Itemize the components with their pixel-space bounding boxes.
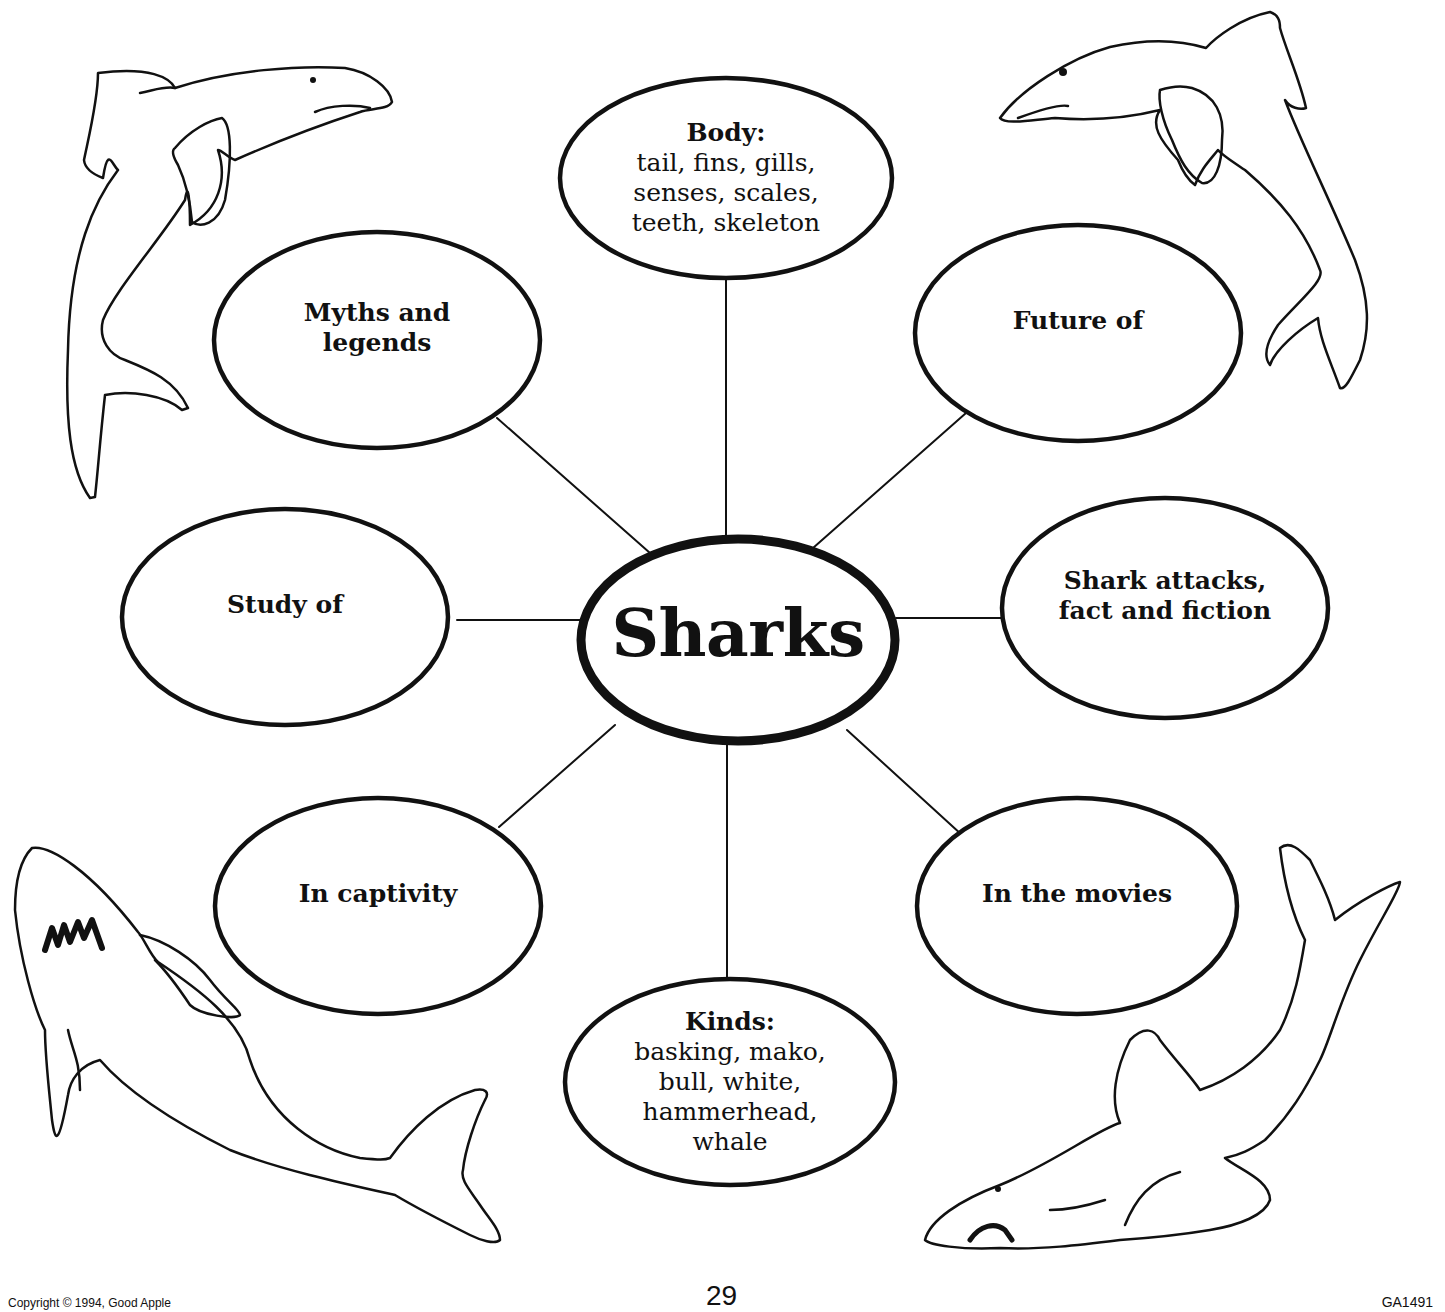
connector-movies (847, 730, 962, 835)
node-detail-line: bull, white, (634, 1067, 826, 1097)
node-title: Body: (632, 118, 820, 148)
center-topic-label: Sharks (611, 594, 864, 673)
node-shark-attacks: Shark attacks,fact and fiction (1059, 566, 1271, 626)
node-captivity: In captivity (299, 879, 458, 909)
node-detail-line: basking, mako, (634, 1037, 826, 1067)
node-title: Study of (227, 590, 343, 620)
connector-future (813, 413, 966, 548)
node-title: Shark attacks, (1059, 566, 1271, 596)
node-detail-line: hammerhead, (634, 1097, 826, 1127)
node-title: Future of (1013, 306, 1143, 336)
node-study: Study of (227, 590, 343, 620)
page-number: 29 (706, 1280, 737, 1312)
node-title: In the movies (982, 879, 1172, 909)
node-title: legends (304, 328, 451, 358)
node-detail-line: tail, fins, gills, (632, 148, 820, 178)
node-body: Body:tail, fins, gills,senses, scales,te… (632, 118, 820, 238)
product-code: GA1491 (1382, 1294, 1433, 1310)
copyright-text: Copyright © 1994, Good Apple (8, 1296, 171, 1310)
node-title: Kinds: (634, 1007, 826, 1037)
node-detail-line: teeth, skeleton (632, 208, 820, 238)
node-myths: Myths andlegends (304, 298, 451, 358)
connector-captivity (499, 725, 615, 827)
node-future: Future of (1013, 306, 1143, 336)
connector-myths (497, 418, 650, 553)
node-title: In captivity (299, 879, 458, 909)
node-detail-line: whale (634, 1127, 826, 1157)
node-movies: In the movies (982, 879, 1172, 909)
node-title: Myths and (304, 298, 451, 328)
node-detail-line: senses, scales, (632, 178, 820, 208)
node-title: fact and fiction (1059, 596, 1271, 626)
node-kinds: Kinds:basking, mako,bull, white,hammerhe… (634, 1007, 826, 1157)
